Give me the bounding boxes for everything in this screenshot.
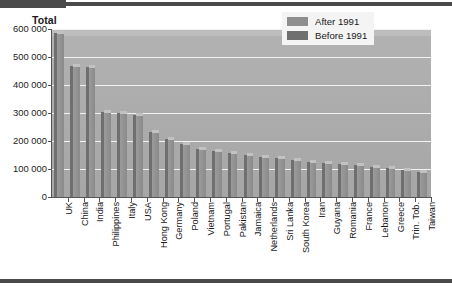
x-axis-tick-mark (305, 198, 306, 202)
y-axis-tick-label: 600 000 (13, 23, 47, 34)
bottom-divider-rule (0, 279, 452, 283)
bar-front-face (183, 145, 190, 197)
bar (291, 158, 301, 197)
x-axis-tick-mark (431, 198, 432, 202)
x-axis-tick-mark (131, 198, 132, 202)
plot-area (52, 29, 431, 197)
bar-front-face (404, 171, 411, 197)
x-axis-tick-mark (352, 198, 353, 202)
y-axis-tick-label: 300 000 (13, 107, 47, 118)
bar-front-face (262, 158, 269, 197)
y-axis-tick-label: 400 000 (13, 79, 47, 90)
bar-top-face (199, 147, 206, 150)
x-axis-tick-label: Germany (174, 202, 184, 240)
x-axis-tick-mark (210, 198, 211, 202)
top-divider-rule (0, 2, 452, 6)
y-axis-tick-label: 200 000 (13, 135, 47, 146)
y-axis-tick-mark (48, 197, 52, 198)
legend-label-before-1991: Before 1991 (315, 30, 367, 41)
bar (244, 153, 254, 197)
x-axis-tick-label: Portugal (222, 202, 232, 236)
bar-top-face (152, 130, 159, 133)
bar-front-face (89, 68, 96, 197)
bar (354, 163, 364, 197)
chart-legend: After 1991 Before 1991 (282, 12, 374, 45)
x-axis-tick-label: Guyana (332, 202, 342, 234)
x-axis-tick-mark (163, 198, 164, 202)
bar-top-face (231, 151, 238, 154)
x-axis-tick-label: Poland (190, 202, 200, 231)
bar-top-face (294, 158, 301, 161)
x-axis-tick-label: Taiwan (427, 202, 437, 231)
chart-figure: Total 600 000500 000400 000300 000200 00… (0, 0, 452, 287)
x-axis-tick-mark (289, 198, 290, 202)
bar-front-face (420, 173, 427, 197)
y-axis-tick-mark (48, 169, 52, 170)
bar (370, 165, 380, 197)
y-axis-tick-label: 500 000 (13, 51, 47, 62)
bar-front-face (215, 152, 222, 197)
y-axis-tick-mark (48, 85, 52, 86)
bar-top-face (404, 168, 411, 171)
y-axis-tick-mark (48, 141, 52, 142)
x-axis-tick-mark (336, 198, 337, 202)
bar-front-face (357, 166, 364, 197)
bar-front-face (104, 113, 111, 197)
bar-front-face (231, 154, 238, 197)
bar-front-face (136, 116, 143, 197)
x-axis-tick-mark (257, 198, 258, 202)
x-axis-tick-label: Sri Lanka (285, 202, 295, 241)
x-axis-tick-label: Pakistan (238, 202, 248, 237)
y-axis-tick-mark (48, 29, 52, 30)
x-axis-tick-mark (226, 198, 227, 202)
bar-front-face (199, 150, 206, 197)
x-axis-tick-mark (384, 198, 385, 202)
x-axis-tick-label: USA (143, 202, 153, 221)
x-axis-tick-label: Philippines (111, 202, 121, 246)
x-axis-tick-mark (99, 198, 100, 202)
bar-top-face (215, 149, 222, 152)
bar-top-face (168, 137, 175, 140)
x-axis-tick-label: Romania (348, 202, 358, 239)
bar (54, 31, 64, 197)
bar-front-face (73, 67, 80, 197)
bar (180, 142, 190, 197)
legend-swatch-after-1991 (287, 17, 308, 26)
bar-top-face (57, 31, 64, 34)
x-axis-tick-label: India (95, 202, 105, 222)
x-axis-tick-mark (415, 198, 416, 202)
legend-swatch-before-1991 (287, 31, 308, 40)
bar-front-face (152, 133, 159, 197)
bar (386, 166, 396, 197)
bar (70, 64, 80, 197)
bar-front-face (341, 165, 348, 197)
x-axis-tick-mark (194, 198, 195, 202)
bar (133, 113, 143, 197)
bar (417, 170, 427, 197)
x-axis-tick-mark (320, 198, 321, 202)
bar-front-face (389, 169, 396, 197)
x-axis-tick-mark (178, 198, 179, 202)
y-axis-tick-label: 0 (42, 191, 47, 202)
bar (196, 147, 206, 197)
bar (228, 151, 238, 197)
bar (275, 156, 285, 197)
bar-top-face (73, 64, 80, 67)
x-axis-tick-label: Vietnam (206, 202, 216, 236)
x-axis-tick-mark (242, 198, 243, 202)
y-axis-tick-labels: 600 000500 000400 000300 000200 000100 0… (0, 0, 47, 287)
bar-front-face (325, 164, 332, 197)
bar (401, 168, 411, 197)
bar (101, 110, 111, 197)
bar-top-face (104, 110, 111, 113)
bar (307, 160, 317, 197)
bar-top-face (357, 163, 364, 166)
x-axis-tick-mark (399, 198, 400, 202)
x-axis-tick-label: Italy (127, 202, 137, 219)
bar-top-face (262, 155, 269, 158)
bar-top-face (183, 142, 190, 145)
bar-top-face (136, 113, 143, 116)
bar-front-face (278, 159, 285, 197)
x-axis-tick-mark (84, 198, 85, 202)
bar (149, 130, 159, 197)
